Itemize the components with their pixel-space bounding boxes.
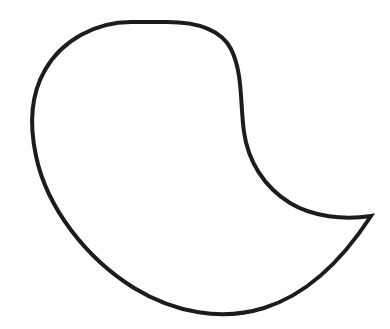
drawing-canvas: [0, 0, 390, 329]
paisley-outline-svg: [0, 0, 390, 329]
